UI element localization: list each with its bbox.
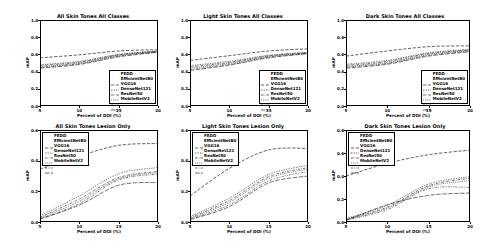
plot-area: 0.00.20.40.65101520FEDDEfficientNetB0VGG… — [190, 130, 308, 222]
legend-line-swatch — [195, 160, 203, 164]
series-line-fedd — [346, 46, 470, 56]
legend-line-swatch — [261, 87, 269, 91]
legend-line-swatch — [423, 92, 431, 96]
y-axis-label: mAP — [25, 51, 30, 75]
x-axis-tick-mark — [158, 222, 159, 224]
legend-line-swatch — [261, 92, 269, 96]
series-line-densenet121 — [40, 173, 158, 219]
series-line-mobilenetv2 — [346, 193, 470, 220]
x-axis-tick-mark — [190, 106, 191, 108]
legend-line-swatch — [111, 82, 119, 86]
x-axis-tick-mark — [346, 222, 347, 224]
plot-area: 0.00.20.40.60.81.05101520FEDDEfficientNe… — [40, 20, 158, 106]
x-axis-tick-mark — [119, 222, 120, 224]
legend-label: MobileNetV2 — [121, 97, 150, 102]
plot-area: 0.00.20.40.60.81.05101520FEDDEfficientNe… — [346, 20, 470, 106]
legend-line-swatch — [111, 72, 119, 76]
legend-line-swatch — [111, 92, 119, 96]
legend-line-swatch — [195, 155, 203, 159]
y-axis-tick-label: 0.2 — [333, 86, 344, 91]
series-line-mobilenetv2 — [346, 52, 470, 68]
legend-line-swatch — [423, 82, 431, 86]
x-axis-tick-mark — [308, 222, 309, 224]
subplot-all-skin-all-classes: All Skin Tones All Classes0.00.20.40.60.… — [22, 6, 164, 118]
x-axis-tick-mark — [40, 222, 41, 224]
series-line-resnet50 — [190, 171, 308, 219]
legend-line-swatch — [351, 145, 359, 149]
legend-line-swatch — [195, 150, 203, 154]
legend-line-swatch — [423, 97, 431, 101]
subplot-light-skin-lesion-only: Light Skin Tones Lesion Only0.00.20.40.6… — [172, 118, 314, 240]
y-axis-tick-label: 0.2 — [177, 86, 188, 91]
x-axis-label: Percent of DOI (%) — [40, 229, 158, 234]
legend-line-swatch — [351, 150, 359, 154]
subplot-dark-skin-all-classes: Dark Skin Tones All Classes0.00.20.40.60… — [330, 6, 480, 118]
legend-line-swatch — [111, 97, 119, 101]
y-axis-tick-label: 1.0 — [27, 18, 38, 23]
legend-line-swatch — [261, 77, 269, 81]
x-axis-label: Percent of DOI (%) — [190, 229, 308, 234]
subplot-title: Dark Skin Tones Lesion Only — [330, 123, 480, 129]
x-axis-tick-mark — [190, 222, 191, 224]
y-axis-tick-label: 0.8 — [333, 128, 344, 133]
series-line-densenet121 — [190, 169, 308, 219]
legend-line-swatch — [423, 77, 431, 81]
x-axis-tick-mark — [229, 222, 230, 224]
y-axis-tick-label: 0.8 — [177, 35, 188, 40]
legend-line-swatch — [195, 145, 203, 149]
x-axis-tick-mark — [158, 106, 159, 108]
legend-line-swatch — [45, 135, 53, 139]
legend-line-swatch — [45, 160, 53, 164]
legend-label: MobileNetV2 — [271, 97, 300, 102]
plot-area: 0.00.20.40.60.85101520FEDDEfficientNetB0… — [346, 130, 470, 222]
plot-area: 0.00.20.40.65101520FEDDEfficientNetB0VGG… — [40, 130, 158, 222]
legend: FEDDEfficientNetB0VGG16DenseNet121ResNet… — [109, 70, 156, 104]
legend: FEDDEfficientNetB0VGG16DenseNet121ResNet… — [421, 70, 468, 104]
x-axis-tick-mark — [387, 106, 388, 108]
x-axis-tick-mark — [269, 222, 270, 224]
x-axis-tick-mark — [40, 106, 41, 108]
y-axis-label: mAP — [175, 51, 180, 75]
legend-line-swatch — [351, 160, 359, 164]
y-axis-tick-label: 1.0 — [177, 18, 188, 23]
y-axis-tick-label: 0.2 — [27, 189, 38, 194]
legend: FEDDEfficientNetB0VGG16DenseNet121ResNet… — [348, 132, 395, 166]
legend-line-swatch — [423, 72, 431, 76]
legend-line-swatch — [351, 135, 359, 139]
legend-label: MobileNetV2 — [360, 159, 389, 164]
subplot-all-skin-lesion-only: All Skin Tones Lesion Only0.00.20.40.651… — [22, 118, 164, 240]
legend-line-swatch — [45, 145, 53, 149]
legend-line-swatch — [45, 140, 53, 144]
legend: FEDDEfficientNetB0VGG16DenseNet121ResNet… — [192, 132, 239, 166]
x-axis-tick-mark — [308, 106, 309, 108]
subplot-dark-skin-lesion-only: Dark Skin Tones Lesion Only0.00.20.40.60… — [330, 118, 480, 240]
legend-line-swatch — [261, 97, 269, 101]
y-axis-tick-label: 0.6 — [177, 128, 188, 133]
legend-entry: MobileNetV2 — [195, 159, 237, 164]
legend-line-swatch — [111, 77, 119, 81]
x-axis-tick-mark — [429, 222, 430, 224]
legend-line-swatch — [261, 82, 269, 86]
x-axis-label: Percent of DOI (%) — [346, 229, 470, 234]
y-axis-tick-label: 1.0 — [333, 18, 344, 23]
legend-label: MobileNetV2 — [433, 97, 462, 102]
y-axis-label: mAP — [331, 51, 336, 75]
subplot-light-skin-all-classes: Light Skin Tones All Classes0.00.20.40.6… — [172, 6, 314, 118]
legend-line-swatch — [45, 155, 53, 159]
series-line-densenet121 — [346, 181, 470, 220]
legend-entry: MobileNetV2 — [261, 97, 303, 102]
legend-line-swatch — [351, 140, 359, 144]
plot-area: 0.00.20.40.60.81.05101520FEDDEfficientNe… — [190, 20, 308, 106]
x-axis-tick-mark — [470, 106, 471, 108]
subplot-title: All Skin Tones Lesion Only — [22, 123, 164, 129]
y-axis-tick-label: 0.2 — [177, 189, 188, 194]
legend-entry: MobileNetV2 — [45, 159, 87, 164]
y-axis-tick-label: 0.8 — [27, 35, 38, 40]
y-axis-tick-label: 0.2 — [27, 86, 38, 91]
legend-entry: MobileNetV2 — [423, 97, 465, 102]
legend: FEDDEfficientNetB0VGG16DenseNet121ResNet… — [259, 70, 306, 104]
legend-entry: MobileNetV2 — [351, 159, 393, 164]
subplot-title: Dark Skin Tones All Classes — [330, 13, 480, 19]
series-line-efficientnetb0 — [190, 165, 308, 216]
y-axis-tick-label: 0.6 — [27, 128, 38, 133]
